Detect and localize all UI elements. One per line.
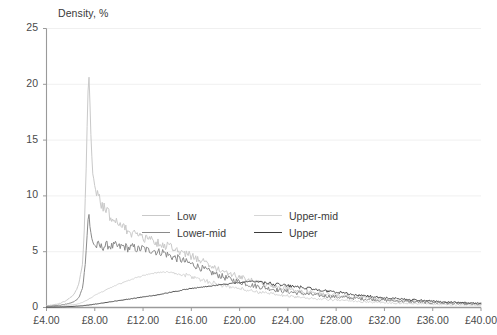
chart-legend: LowUpper-midLower-midUpper (142, 207, 352, 241)
x-tick-label: £24.00 (272, 314, 304, 326)
y-tick-label: 25 (12, 21, 38, 33)
legend-swatch-line-icon (142, 215, 170, 216)
legend-item-label: Lower-mid (177, 227, 226, 239)
y-tick-label: 15 (12, 133, 38, 145)
x-tick-label: £28.00 (320, 314, 352, 326)
x-tick-label: £8.00 (82, 314, 108, 326)
x-tick-label: £36.00 (417, 314, 449, 326)
y-tick-label: 5 (12, 244, 38, 256)
series-line-low (47, 77, 482, 305)
y-tick-label: 10 (12, 188, 38, 200)
x-tick-label: £4.00 (33, 314, 59, 326)
legend-item[interactable]: Lower-mid (142, 227, 254, 239)
x-tick-label: £32.00 (368, 314, 400, 326)
legend-item-label: Upper-mid (289, 210, 338, 222)
legend-item[interactable]: Upper (254, 227, 366, 239)
x-tick-label: £12.00 (127, 314, 159, 326)
legend-item[interactable]: Upper-mid (254, 210, 366, 222)
y-tick-label: 0 (12, 300, 38, 312)
x-tick-label: £16.00 (175, 314, 207, 326)
y-tick-label: 20 (12, 77, 38, 89)
legend-item-label: Low (177, 210, 196, 222)
x-tick-label: £20.00 (224, 314, 256, 326)
legend-swatch-line-icon (254, 232, 282, 233)
legend-swatch-line-icon (142, 232, 170, 233)
legend-swatch-line-icon (254, 215, 282, 216)
legend-item-label: Upper (289, 227, 318, 239)
legend-item[interactable]: Low (142, 210, 254, 222)
x-tick-label: £40.00 (465, 314, 497, 326)
